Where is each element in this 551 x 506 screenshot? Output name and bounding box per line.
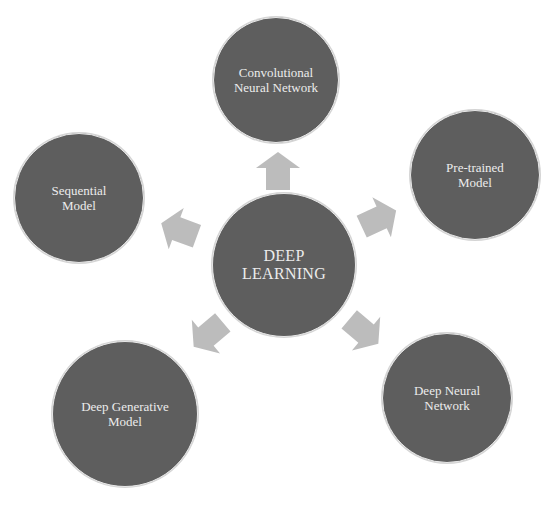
node-convolutional-neural-network: Convolutional Neural Network bbox=[213, 17, 339, 143]
node-label: Deep Generative Model bbox=[75, 399, 175, 429]
node-sequential-model: Sequential Model bbox=[14, 133, 144, 263]
node-label: Convolutional Neural Network bbox=[228, 65, 324, 95]
arrow-to-sequential-icon bbox=[154, 202, 205, 256]
deep-learning-diagram: DEEP LEARNING Convolutional Neural Netwo… bbox=[0, 0, 551, 506]
node-pre-trained-model: Pre-trained Model bbox=[410, 110, 540, 240]
node-label: Deep Neural Network bbox=[408, 383, 486, 413]
arrow-to-dnn-icon bbox=[335, 303, 392, 361]
node-deep-generative-model: Deep Generative Model bbox=[52, 341, 198, 487]
center-node-label: DEEP LEARNING bbox=[236, 247, 332, 283]
arrow-to-generative-icon bbox=[180, 306, 237, 364]
center-node-deep-learning: DEEP LEARNING bbox=[212, 193, 356, 337]
arrow-to-cnn-icon bbox=[256, 152, 300, 190]
node-deep-neural-network: Deep Neural Network bbox=[382, 333, 512, 463]
node-label: Sequential Model bbox=[46, 183, 113, 213]
arrow-to-pretrained-icon bbox=[352, 191, 405, 247]
node-label: Pre-trained Model bbox=[440, 160, 510, 190]
